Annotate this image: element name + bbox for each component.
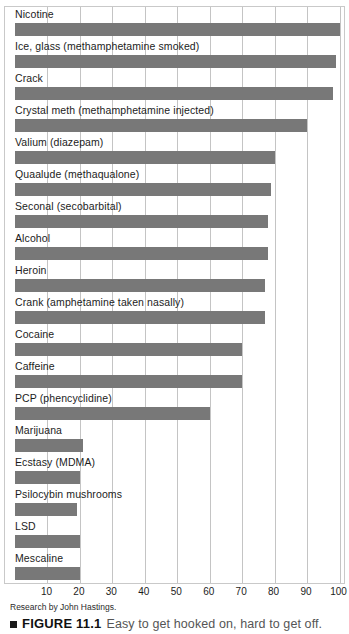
- bar-label: Ecstasy (MDMA): [15, 456, 95, 469]
- bar-row: Caffeine: [5, 359, 344, 391]
- bar-row: Ice, glass (methamphetamine smoked): [5, 39, 344, 71]
- chart-plot-area: NicotineIce, glass (methamphetamine smok…: [4, 6, 345, 584]
- bar: [15, 535, 80, 548]
- bar-row: Crank (amphetamine taken nasally): [5, 295, 344, 327]
- source-note: Research by John Hastings.: [10, 602, 116, 613]
- bar-row: Alcohol: [5, 231, 344, 263]
- bar-label: Marijuana: [15, 424, 62, 437]
- bar: [15, 503, 77, 516]
- bar-label: Crank (amphetamine taken nasally): [15, 296, 184, 309]
- bar-row: Quaalude (methaqualone): [5, 167, 344, 199]
- bar-label: Caffeine: [15, 360, 55, 373]
- bar-row: Mescaline: [5, 551, 344, 583]
- bar: [15, 151, 275, 164]
- bar: [15, 55, 336, 68]
- figure-caption: FIGURE 11.1 Easy to get hooked on, hard …: [10, 616, 345, 631]
- bar: [15, 247, 268, 260]
- bar: [15, 471, 80, 484]
- x-tick-label-40: 40: [138, 586, 149, 598]
- bar-label: Ice, glass (methamphetamine smoked): [15, 40, 199, 53]
- bar-rows: NicotineIce, glass (methamphetamine smok…: [5, 7, 344, 583]
- bar: [15, 343, 242, 356]
- bar-row: Psilocybin mushrooms: [5, 487, 344, 519]
- bar-label: Seconal (secobarbital): [15, 200, 122, 213]
- x-tick-label-10: 10: [41, 586, 52, 598]
- bar: [15, 279, 265, 292]
- x-tick-label-60: 60: [203, 586, 214, 598]
- bar: [15, 375, 242, 388]
- x-tick-label-20: 20: [73, 586, 84, 598]
- bar-label: Crystal meth (methamphetamine injected): [15, 104, 214, 117]
- bar-row: PCP (phencyclidine): [5, 391, 344, 423]
- bar-label: Quaalude (methaqualone): [15, 168, 139, 181]
- bar-row: Cocaine: [5, 327, 344, 359]
- x-tick-label-100: 100: [330, 586, 347, 598]
- x-tick-label-80: 80: [268, 586, 279, 598]
- bar-label: LSD: [15, 520, 36, 533]
- x-tick-label-30: 30: [106, 586, 117, 598]
- bar-label: PCP (phencyclidine): [15, 392, 112, 405]
- bar-label: Alcohol: [15, 232, 50, 245]
- bar: [15, 87, 333, 100]
- bar: [15, 407, 210, 420]
- x-axis: 102030405060708090100: [4, 584, 345, 602]
- bar-label: Valium (diazepam): [15, 136, 103, 149]
- bar-label: Nicotine: [15, 8, 54, 21]
- bar-label: Psilocybin mushrooms: [15, 488, 122, 501]
- bar: [15, 311, 265, 324]
- bar: [15, 23, 340, 36]
- bar-row: Ecstasy (MDMA): [5, 455, 344, 487]
- bar: [15, 439, 83, 452]
- bar-row: Crystal meth (methamphetamine injected): [5, 103, 344, 135]
- x-tick-label-50: 50: [171, 586, 182, 598]
- figure-number: FIGURE 11.1: [22, 616, 102, 631]
- bar: [15, 567, 80, 580]
- x-tick-label-90: 90: [300, 586, 311, 598]
- caption-square-icon: [10, 621, 17, 628]
- bar-label: Heroin: [15, 264, 47, 277]
- bar-row: LSD: [5, 519, 344, 551]
- bar-label: Crack: [15, 72, 43, 85]
- figure-caption-text: Easy to get hooked on, hard to get off.: [107, 617, 323, 631]
- bar-row: Heroin: [5, 263, 344, 295]
- x-tick-label-70: 70: [236, 586, 247, 598]
- bar-row: Crack: [5, 71, 344, 103]
- bar-row: Seconal (secobarbital): [5, 199, 344, 231]
- bar: [15, 119, 307, 132]
- bar: [15, 183, 271, 196]
- bar: [15, 215, 268, 228]
- figure-container: NicotineIce, glass (methamphetamine smok…: [0, 0, 349, 634]
- bar-row: Marijuana: [5, 423, 344, 455]
- bar-label: Mescaline: [15, 552, 63, 565]
- bar-label: Cocaine: [15, 328, 54, 341]
- bar-row: Valium (diazepam): [5, 135, 344, 167]
- bar-row: Nicotine: [5, 7, 344, 39]
